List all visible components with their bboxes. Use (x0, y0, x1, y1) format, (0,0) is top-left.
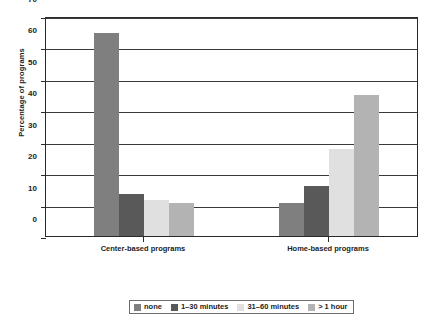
y-axis-tick-label: 70 (7, 0, 37, 4)
x-axis-category-label: Center-based programs (68, 244, 218, 253)
legend-item[interactable]: 31–60 minutes (237, 303, 299, 311)
legend-label: none (144, 303, 162, 311)
legend-swatch-icon (134, 304, 141, 311)
x-axis-category-label: Home-based programs (253, 244, 403, 253)
y-axis-tick-label: 60 (7, 26, 37, 35)
plot-area (45, 17, 418, 237)
bar (144, 200, 169, 236)
legend-item[interactable]: none (134, 303, 162, 311)
bar (119, 194, 144, 236)
y-axis-tick-label: 0 (7, 215, 37, 224)
chart-legend: none1–30 minutes31–60 minutes> 1 hour (129, 300, 354, 314)
legend-item[interactable]: 1–30 minutes (171, 303, 229, 311)
x-axis-tick (328, 237, 329, 242)
legend-label: > 1 hour (318, 303, 347, 311)
legend-swatch-icon (237, 304, 244, 311)
bar (279, 203, 304, 236)
bar (169, 203, 194, 236)
y-axis-tick (41, 238, 46, 239)
x-axis-tick (143, 237, 144, 242)
legend-item[interactable]: > 1 hour (308, 303, 347, 311)
y-axis-tick-label: 20 (7, 152, 37, 161)
y-axis-tick-label: 30 (7, 120, 37, 129)
bar (94, 33, 119, 236)
legend-label: 31–60 minutes (247, 303, 299, 311)
bar (354, 95, 379, 236)
bar-series-group (46, 18, 417, 236)
y-axis-tick-label: 50 (7, 57, 37, 66)
y-axis-tick-label: 10 (7, 183, 37, 192)
legend-label: 1–30 minutes (181, 303, 229, 311)
legend-swatch-icon (171, 304, 178, 311)
y-axis-tick-label: 40 (7, 89, 37, 98)
y-axis-tick-labels: 010203040506070 (0, 0, 45, 220)
bar-chart: Percentage of programs 010203040506070 C… (0, 0, 430, 328)
bar (329, 149, 354, 236)
legend-swatch-icon (308, 304, 315, 311)
bar (304, 186, 329, 236)
